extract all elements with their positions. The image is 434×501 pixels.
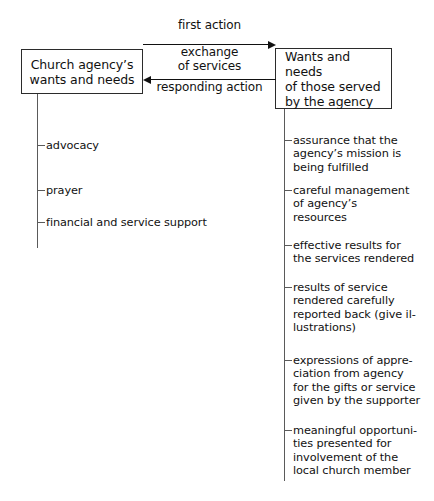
node-those-served: Wants and needs of those served by the a…	[275, 48, 392, 109]
arrow-label-responding-action: responding action	[143, 80, 276, 94]
branch-tick	[284, 360, 292, 361]
branch-label: results of service rendered carefully re…	[292, 281, 416, 334]
branch-tick	[284, 140, 292, 141]
branch-tick	[284, 287, 292, 288]
list-item: meaningful opportuni- ties presented for…	[284, 424, 434, 477]
branch-tick	[37, 190, 45, 191]
branch-label: assurance that the agency’s mission is b…	[292, 134, 401, 174]
list-item: advocacy	[37, 139, 99, 152]
list-item: effective results for the services rende…	[284, 239, 434, 266]
node-church-agency: Church agency’s wants and needs	[21, 49, 143, 94]
branch-tick	[284, 245, 292, 246]
exchange-of-services-diagram: Church agency’s wants and needs Wants an…	[0, 0, 434, 501]
branch-label: financial and service support	[45, 216, 207, 229]
list-item: prayer	[37, 184, 82, 197]
list-item: expressions of appre- ciation from agenc…	[284, 354, 434, 407]
branch-tick	[284, 190, 292, 191]
branch-tick	[37, 222, 45, 223]
arrow-label-first-action: first action	[143, 18, 276, 32]
branch-tick	[37, 145, 45, 146]
node-church-agency-label: Church agency’s wants and needs	[30, 57, 135, 87]
branch-label: expressions of appre- ciation from agenc…	[292, 354, 420, 407]
arrow-label-exchange-of-services: exchange of services	[143, 45, 276, 73]
list-item: financial and service support	[37, 216, 207, 229]
list-item: assurance that the agency’s mission is b…	[284, 134, 434, 174]
list-item: careful management of agency’s resources	[284, 184, 434, 224]
branch-label: advocacy	[45, 139, 99, 152]
branch-label: careful management of agency’s resources	[292, 184, 409, 224]
branch-label: prayer	[45, 184, 82, 197]
branch-tick	[284, 430, 292, 431]
branch-label: effective results for the services rende…	[292, 239, 414, 266]
node-those-served-label: Wants and needs of those served by the a…	[276, 49, 391, 109]
list-item: results of service rendered carefully re…	[284, 281, 434, 334]
arrow-group: first action exchange of services respon…	[143, 18, 276, 100]
branch-label: meaningful opportuni- ties presented for…	[292, 424, 417, 477]
